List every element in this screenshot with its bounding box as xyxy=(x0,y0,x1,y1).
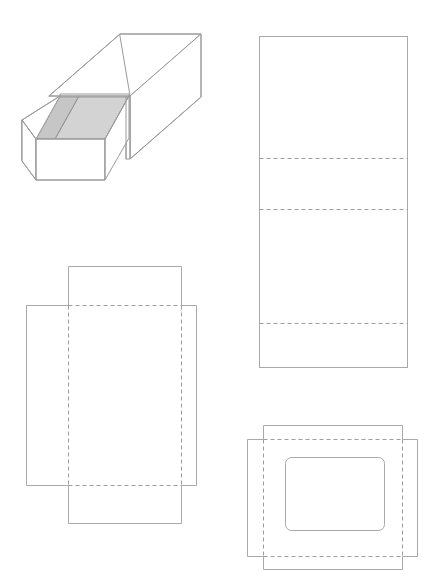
tray-dieline xyxy=(27,267,197,524)
window-panel-dieline xyxy=(248,426,418,570)
dieline-sheet xyxy=(0,0,441,587)
drawer-front-face xyxy=(36,139,105,180)
drawing-canvas xyxy=(0,0,441,587)
isometric-matchbox-view xyxy=(22,34,201,180)
sleeve-dieline-outline xyxy=(260,37,408,368)
sleeve-dieline xyxy=(260,37,408,368)
window-cutout xyxy=(286,458,385,531)
window-dieline-outline xyxy=(248,426,418,570)
